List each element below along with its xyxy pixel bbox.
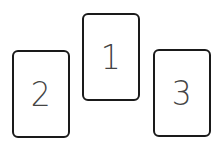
card-1: 1 <box>82 13 140 101</box>
card-number: 1 <box>101 40 121 74</box>
card-2: 2 <box>12 50 70 138</box>
card-number: 2 <box>31 77 51 111</box>
card-3: 3 <box>153 49 211 137</box>
card-number: 3 <box>172 76 192 110</box>
